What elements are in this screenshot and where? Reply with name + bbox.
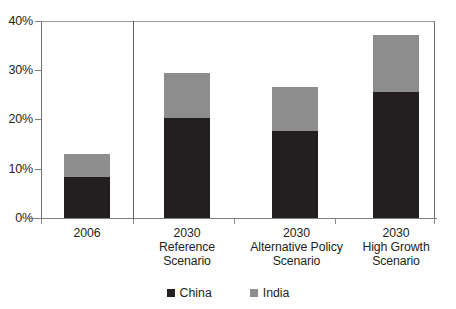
x-axis-label-2030-reference: 2030 Reference Scenario — [137, 226, 237, 269]
bar-segment-india — [272, 87, 318, 131]
legend-swatch-icon — [250, 289, 258, 297]
x-axis-tick-3 — [335, 219, 336, 224]
bar-segment-china — [64, 177, 110, 218]
bar-2030-high-growth — [373, 35, 419, 218]
x-axis-label-line: Reference — [137, 240, 237, 254]
bar-segment-china — [164, 118, 210, 218]
y-axis-label-20: 20% — [0, 112, 33, 126]
x-axis-label-line: 2030 — [346, 226, 446, 240]
x-axis-tick-2 — [234, 219, 235, 224]
x-axis-baseline — [28, 218, 437, 219]
bar-segment-india — [164, 73, 210, 118]
bar-2030-reference — [164, 73, 210, 218]
y-axis-label-30: 30% — [0, 63, 33, 77]
x-axis-label-2006: 2006 — [37, 226, 137, 240]
chart-legend: China India — [0, 286, 456, 300]
x-axis-tick-left-edge — [41, 219, 42, 224]
x-axis-label-line: Scenario — [233, 254, 360, 268]
y-axis-label-40: 40% — [0, 14, 33, 28]
x-axis-label-2030-alternative-policy: 2030 Alternative Policy Scenario — [233, 226, 360, 269]
x-axis-label-line: Scenario — [346, 254, 446, 268]
x-axis-tick-divider — [133, 219, 134, 224]
bar-2030-alternative-policy — [272, 87, 318, 218]
bar-segment-china — [373, 92, 419, 218]
scenario-group-divider — [133, 21, 134, 219]
legend-entry-india: India — [250, 286, 290, 300]
legend-label: China — [180, 286, 212, 300]
legend-swatch-icon — [167, 289, 175, 297]
bar-segment-india — [64, 154, 110, 177]
stacked-bar-chart-figure: 40% 30% 20% 10% 0% 2006 2030 Reference S… — [0, 0, 456, 309]
x-axis-label-line: High Growth — [346, 240, 446, 254]
legend-entry-china: China — [167, 286, 212, 300]
x-axis-label-line: Alternative Policy — [233, 240, 360, 254]
y-axis-label-10: 10% — [0, 162, 33, 176]
x-axis-label-line: Scenario — [137, 254, 237, 268]
x-axis-tick-right-edge — [434, 219, 435, 224]
bar-2006 — [64, 154, 110, 218]
legend-label: India — [263, 286, 290, 300]
bar-segment-india — [373, 35, 419, 92]
x-axis-label-line: 2030 — [233, 226, 360, 240]
x-axis-label-2030-high-growth: 2030 High Growth Scenario — [346, 226, 446, 269]
x-axis-label-line: 2030 — [137, 226, 237, 240]
chart-title-truncated — [0, 0, 456, 2]
x-axis-label-line: 2006 — [37, 226, 137, 240]
bar-segment-china — [272, 131, 318, 218]
